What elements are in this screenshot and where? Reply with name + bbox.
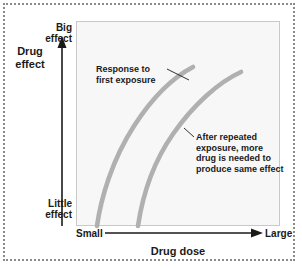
x-axis-arrow [105,229,263,238]
y-axis-top-label: Big effect [34,22,72,44]
y-axis-title: Drug effect [6,45,54,71]
x-axis-left-label: Small [76,228,103,240]
annotation-after-repeated: After repeated exposure, more drug is ne… [196,132,292,174]
drug-tolerance-figure: Big effect Little effect Drug effect Sma… [0,0,302,268]
annotation-first-exposure: Response to first exposure [96,64,176,85]
y-axis-bottom-label: Little effect [30,198,72,220]
x-axis-right-label: Large [265,228,292,240]
plot-area [76,21,280,226]
x-axis-title: Drug dose [76,245,280,258]
